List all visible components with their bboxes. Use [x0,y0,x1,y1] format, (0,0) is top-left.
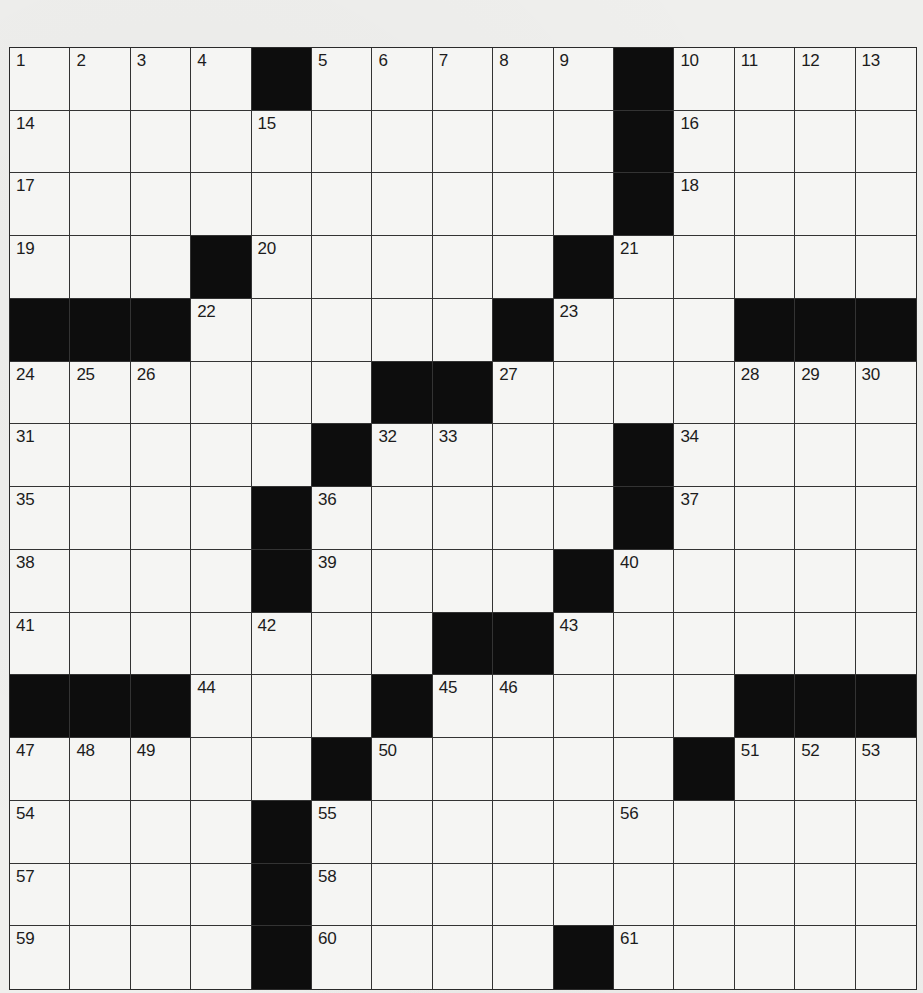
grid-cell[interactable] [493,801,553,864]
grid-cell[interactable] [554,675,614,738]
clue-cell-23[interactable]: 23 [554,299,614,362]
grid-cell[interactable] [856,864,916,927]
grid-cell[interactable] [554,362,614,425]
clue-cell-6[interactable]: 6 [372,48,432,111]
clue-cell-39[interactable]: 39 [312,550,372,613]
grid-cell[interactable] [674,299,734,362]
grid-cell[interactable] [614,738,674,801]
clue-cell-61[interactable]: 61 [614,926,674,989]
grid-cell[interactable] [856,926,916,989]
grid-cell[interactable] [191,362,251,425]
grid-cell[interactable] [372,236,432,299]
clue-cell-30[interactable]: 30 [856,362,916,425]
grid-cell[interactable] [433,487,493,550]
grid-cell[interactable] [554,738,614,801]
grid-cell[interactable] [70,801,130,864]
clue-cell-51[interactable]: 51 [735,738,795,801]
grid-cell[interactable] [433,926,493,989]
grid-cell[interactable] [131,487,191,550]
grid-cell[interactable] [735,801,795,864]
clue-cell-32[interactable]: 32 [372,424,432,487]
grid-cell[interactable] [131,864,191,927]
grid-cell[interactable] [493,550,553,613]
clue-cell-53[interactable]: 53 [856,738,916,801]
clue-cell-55[interactable]: 55 [312,801,372,864]
grid-cell[interactable] [312,299,372,362]
grid-cell[interactable] [131,173,191,236]
clue-cell-44[interactable]: 44 [191,675,251,738]
clue-cell-47[interactable]: 47 [10,738,70,801]
grid-cell[interactable] [493,424,553,487]
grid-cell[interactable] [674,236,734,299]
grid-cell[interactable] [70,926,130,989]
grid-cell[interactable] [795,111,855,174]
grid-cell[interactable] [735,864,795,927]
grid-cell[interactable] [131,111,191,174]
grid-cell[interactable] [674,362,734,425]
grid-cell[interactable] [191,550,251,613]
grid-cell[interactable] [191,424,251,487]
clue-cell-36[interactable]: 36 [312,487,372,550]
grid-cell[interactable] [372,613,432,676]
grid-cell[interactable] [372,864,432,927]
grid-cell[interactable] [433,299,493,362]
grid-cell[interactable] [493,173,553,236]
clue-cell-17[interactable]: 17 [10,173,70,236]
clue-cell-24[interactable]: 24 [10,362,70,425]
grid-cell[interactable] [795,801,855,864]
grid-cell[interactable] [433,173,493,236]
grid-cell[interactable] [312,675,372,738]
grid-cell[interactable] [433,550,493,613]
grid-cell[interactable] [856,801,916,864]
grid-cell[interactable] [191,738,251,801]
grid-cell[interactable] [252,738,312,801]
clue-cell-13[interactable]: 13 [856,48,916,111]
grid-cell[interactable] [433,801,493,864]
grid-cell[interactable] [795,864,855,927]
grid-cell[interactable] [795,173,855,236]
grid-cell[interactable] [372,550,432,613]
grid-cell[interactable] [372,173,432,236]
grid-cell[interactable] [856,424,916,487]
clue-cell-1[interactable]: 1 [10,48,70,111]
clue-cell-21[interactable]: 21 [614,236,674,299]
clue-cell-14[interactable]: 14 [10,111,70,174]
grid-cell[interactable] [131,550,191,613]
grid-cell[interactable] [674,801,734,864]
grid-cell[interactable] [554,864,614,927]
grid-cell[interactable] [252,675,312,738]
grid-cell[interactable] [433,236,493,299]
grid-cell[interactable] [674,864,734,927]
grid-cell[interactable] [856,236,916,299]
grid-cell[interactable] [554,801,614,864]
grid-cell[interactable] [795,236,855,299]
grid-cell[interactable] [856,173,916,236]
grid-cell[interactable] [191,864,251,927]
grid-cell[interactable] [735,173,795,236]
grid-cell[interactable] [372,801,432,864]
grid-cell[interactable] [131,613,191,676]
grid-cell[interactable] [191,801,251,864]
clue-cell-58[interactable]: 58 [312,864,372,927]
clue-cell-4[interactable]: 4 [191,48,251,111]
clue-cell-57[interactable]: 57 [10,864,70,927]
grid-cell[interactable] [70,424,130,487]
grid-cell[interactable] [735,613,795,676]
grid-cell[interactable] [674,926,734,989]
grid-cell[interactable] [795,550,855,613]
clue-cell-25[interactable]: 25 [70,362,130,425]
grid-cell[interactable] [372,926,432,989]
clue-cell-9[interactable]: 9 [554,48,614,111]
grid-cell[interactable] [493,236,553,299]
clue-cell-56[interactable]: 56 [614,801,674,864]
grid-cell[interactable] [131,424,191,487]
clue-cell-45[interactable]: 45 [433,675,493,738]
grid-cell[interactable] [131,236,191,299]
clue-cell-29[interactable]: 29 [795,362,855,425]
clue-cell-15[interactable]: 15 [252,111,312,174]
clue-cell-46[interactable]: 46 [493,675,553,738]
grid-cell[interactable] [735,424,795,487]
grid-cell[interactable] [795,926,855,989]
clue-cell-37[interactable]: 37 [674,487,734,550]
clue-cell-26[interactable]: 26 [131,362,191,425]
